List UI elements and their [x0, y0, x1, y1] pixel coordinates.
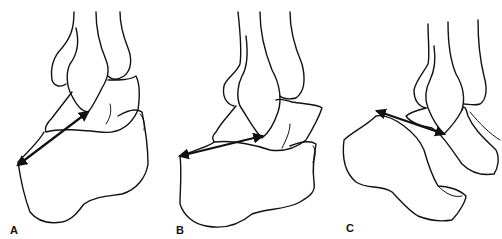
panel-c-drawing	[343, 20, 500, 221]
tibia-c	[426, 22, 464, 134]
tibia-medial-b	[280, 12, 304, 99]
fibula-c	[414, 24, 429, 108]
calcaneus-edge-a	[140, 114, 144, 130]
tibia-medial-c	[464, 20, 486, 105]
fibula-a	[51, 12, 74, 86]
measurement-arrow-a	[18, 112, 88, 165]
talus-inner-a	[106, 104, 111, 124]
panel-label-c: C	[346, 222, 354, 234]
talus-c	[406, 107, 498, 174]
calcaneus-b	[180, 142, 316, 227]
tibia-medial-a	[108, 12, 131, 79]
navicular-c	[470, 112, 500, 140]
calcaneus-a	[18, 110, 148, 223]
panel-a-drawing	[18, 12, 148, 223]
talus-a	[45, 76, 139, 132]
calcaneus-c	[343, 116, 466, 221]
figure-canvas	[0, 0, 502, 239]
talus-inner-b	[282, 124, 290, 148]
measurement-arrow-b	[180, 136, 262, 156]
panel-label-a: A	[10, 224, 18, 236]
panel-b-drawing	[180, 12, 322, 227]
talus-b	[213, 99, 322, 150]
panel-label-b: B	[176, 224, 184, 236]
tibia-b	[238, 12, 280, 138]
